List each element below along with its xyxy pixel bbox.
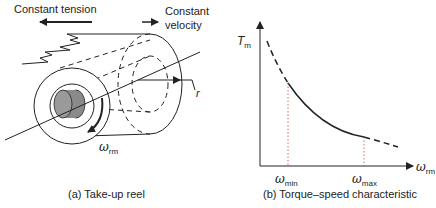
- x-axis-label: ωrm: [416, 160, 435, 176]
- take-up-reel-figure: [5, 22, 200, 144]
- velocity-label-line2: velocity: [165, 19, 202, 31]
- tension-label: Constant tension: [14, 3, 97, 15]
- torque-speed-chart: [260, 22, 413, 166]
- omega-rm-label: ωrm: [99, 140, 118, 156]
- velocity-label-line1: Constant: [165, 5, 209, 17]
- tick-omega-min: ωmin: [275, 172, 298, 188]
- radius-label: r: [196, 87, 200, 99]
- caption-a: (a) Take-up reel: [68, 188, 145, 200]
- y-axis-label: Tm: [237, 34, 251, 50]
- tick-omega-max: ωmax: [352, 172, 377, 188]
- caption-b: (b) Torque–speed characteristic: [263, 188, 417, 200]
